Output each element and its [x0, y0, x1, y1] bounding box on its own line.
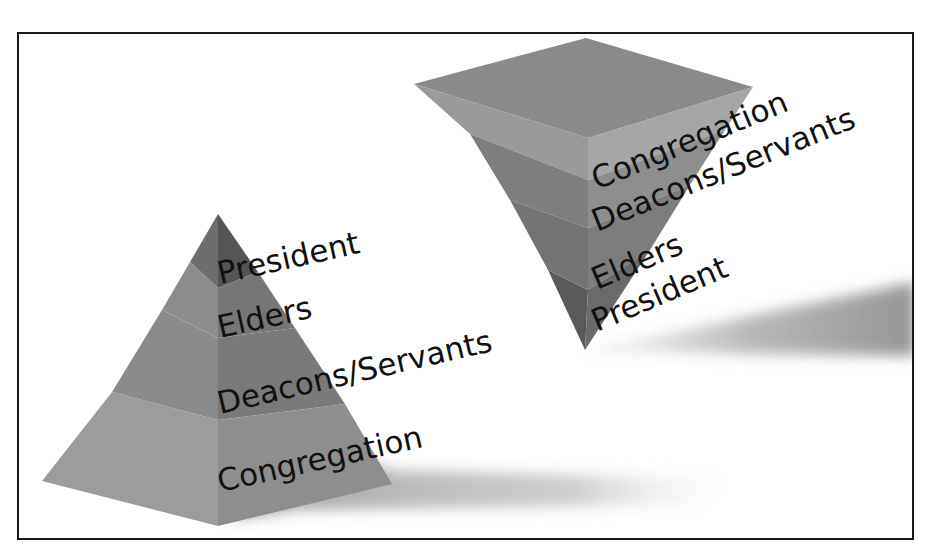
pyramid-diagram: President Elders Deacons/Servants Congre…: [0, 0, 937, 546]
right-pyramid: Congregation Deacons/Servants Elders Pre…: [414, 38, 860, 350]
left-label-president: President: [214, 224, 363, 290]
